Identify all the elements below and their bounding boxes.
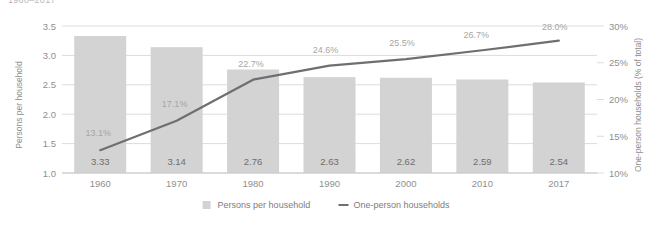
household-size-chart: 1.01.52.02.53.03.5 10%15%20%25%30% Perso… [0,0,657,228]
right-axis-tick-labels: 10%15%20%25%30% [597,21,629,179]
bar-value-label: 3.14 [167,156,186,167]
line-value-label: 26.7% [464,30,490,40]
clipped-chart-title: 1960–2017 [8,0,56,5]
line-value-label: 24.6% [313,45,339,55]
line-value-label: 28.0% [542,22,568,32]
category-label: 2010 [472,178,493,189]
left-axis-title: Persons per household [14,61,24,149]
left-tick-label: 3.5 [43,21,56,32]
right-tick-label: 10% [609,168,629,179]
chart-container: 1960–2017 1.01.52.02.53.03.5 10%15%20%25… [0,0,657,228]
right-tick-label: 15% [609,131,629,142]
chart-legend: Persons per householdOne-person househol… [203,200,450,210]
bar-value-label: 2.62 [397,156,416,167]
bar [74,36,126,173]
legend-label: One-person households [354,200,451,210]
bar-series [74,36,585,173]
category-label: 1990 [319,178,340,189]
category-label: 2017 [548,178,569,189]
legend-swatch-bar [203,201,211,209]
left-tick-label: 2.5 [43,79,56,90]
bar-value-label: 2.59 [473,156,492,167]
line-value-label: 13.1% [85,128,111,138]
bar-value-label: 2.54 [550,156,569,167]
left-tick-label: 1.0 [43,168,56,179]
bar-value-label: 2.76 [244,156,263,167]
right-tick-label: 30% [609,21,629,32]
category-label: 2000 [395,178,416,189]
line-value-label: 17.1% [162,99,188,109]
category-label: 1980 [242,178,263,189]
line-value-label: 25.5% [389,38,415,48]
right-tick-label: 25% [609,57,629,68]
category-label: 1970 [166,178,187,189]
left-tick-label: 3.0 [43,50,56,61]
legend-label: Persons per household [218,200,311,210]
line-value-label: 22.7% [238,59,264,69]
category-labels: 1960197019801990200020102017 [90,178,570,189]
bar-value-label: 3.33 [91,156,110,167]
left-tick-label: 1.5 [43,138,56,149]
left-axis-tick-labels: 1.01.52.02.53.03.5 [43,21,56,179]
right-tick-label: 20% [609,94,629,105]
bar-value-label: 2.63 [320,156,339,167]
left-tick-label: 2.0 [43,109,56,120]
category-label: 1960 [90,178,111,189]
right-axis-title: One-person households (% of total) [633,38,643,172]
